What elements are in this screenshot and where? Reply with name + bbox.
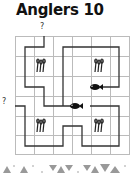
line-left-entry <box>15 106 119 146</box>
puzzle-board[interactable] <box>0 0 140 160</box>
fishing-lines <box>15 36 119 146</box>
fishing-rods-icon <box>37 59 103 132</box>
decorative-triangle-band <box>0 160 140 176</box>
grid <box>15 36 130 155</box>
